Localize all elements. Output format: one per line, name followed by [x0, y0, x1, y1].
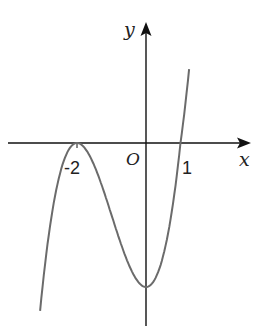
cubic-curve [40, 69, 189, 311]
tick-label-1: 1 [182, 158, 192, 178]
y-axis-label: y [123, 18, 135, 40]
function-graph: y x O -2 1 [0, 0, 259, 329]
origin-label: O [126, 149, 140, 169]
tick-label-minus-2: -2 [64, 158, 80, 178]
x-axis-label: x [239, 148, 250, 170]
